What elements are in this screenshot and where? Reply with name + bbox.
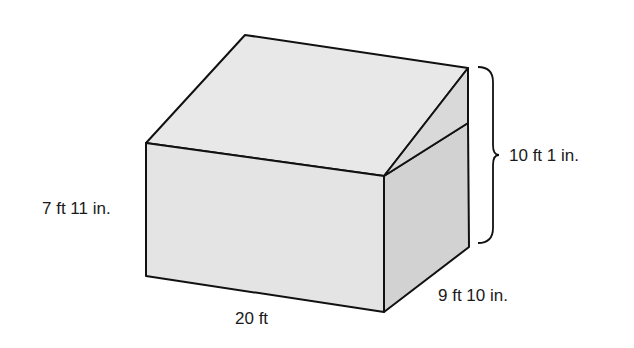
height-brace: [478, 67, 499, 243]
total-height-label: 10 ft 1 in.: [509, 146, 579, 165]
depth-label: 9 ft 10 in.: [438, 286, 508, 305]
prism-diagram: 7 ft 11 in. 10 ft 1 in. 9 ft 10 in. 20 f…: [0, 0, 634, 348]
length-label: 20 ft: [235, 309, 268, 328]
front-height-label: 7 ft 11 in.: [42, 199, 111, 218]
